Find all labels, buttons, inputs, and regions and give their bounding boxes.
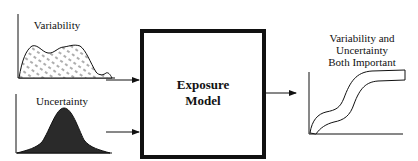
output-label-line3: Both Important bbox=[312, 56, 412, 68]
output-label-line1: Variability and bbox=[312, 32, 412, 44]
model-title-line2: Model bbox=[144, 93, 262, 109]
output-plot bbox=[309, 70, 405, 134]
output-label: Variability and Uncertainty Both Importa… bbox=[312, 32, 412, 68]
uncertainty-label: Uncertainty bbox=[22, 95, 102, 107]
variability-distribution bbox=[19, 45, 112, 78]
uncertainty-distribution bbox=[17, 108, 110, 153]
exposure-model-title: Exposure Model bbox=[144, 77, 262, 109]
exposure-model-box: Exposure Model bbox=[140, 29, 266, 159]
variability-label: Variability bbox=[22, 19, 92, 31]
output-band bbox=[310, 70, 405, 134]
output-label-line2: Uncertainty bbox=[312, 44, 412, 56]
model-title-line1: Exposure bbox=[144, 77, 262, 93]
